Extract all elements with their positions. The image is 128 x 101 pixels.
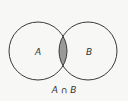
set-b-label: B (86, 47, 92, 57)
venn-diagram: A B A ∩ B (0, 0, 128, 101)
set-a-label: A (34, 47, 41, 57)
caption: A ∩ B (51, 85, 77, 95)
